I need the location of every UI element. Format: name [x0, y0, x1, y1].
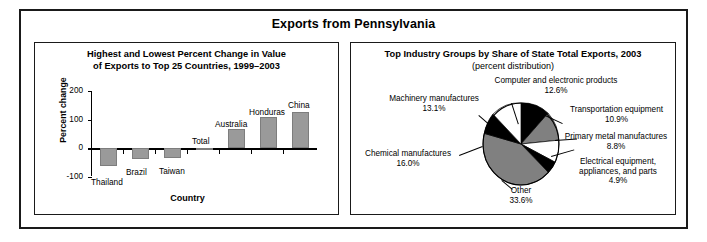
x-axis-title: Country — [35, 193, 340, 203]
x-tick-2 — [155, 150, 156, 154]
bar-taiwan — [164, 148, 181, 158]
pie-label-other: Other 33.6% — [481, 186, 561, 205]
pie-value-chemical: 16.0% — [396, 159, 419, 168]
pie-label-text-chemical: Chemical manufactures — [365, 149, 451, 158]
x-tick-5 — [251, 150, 252, 154]
pie-value-computer: 12.6% — [544, 86, 567, 95]
pie-value-electrical: 4.9% — [609, 176, 628, 185]
bar-australia — [228, 129, 245, 149]
bar-label-taiwan: Taiwan — [159, 166, 185, 176]
bar-label-thailand: Thailand — [91, 177, 123, 187]
pie-chart-panel: Top Industry Groups by Share of State To… — [350, 42, 676, 215]
x-tick-4 — [219, 150, 220, 154]
pie-label-text-primary-metal: Primary metal manufactures — [565, 132, 667, 141]
x-tick-3 — [187, 150, 188, 154]
y-tick-100 — [88, 120, 92, 121]
pie-value-machinery: 13.1% — [422, 104, 445, 113]
pie-value-primary-metal: 8.8% — [607, 142, 626, 151]
y-axis-title: Percent change — [58, 75, 68, 145]
pie-label-text-other: Other — [511, 186, 531, 195]
bar-china — [292, 112, 309, 148]
pie-value-transportation: 10.9% — [605, 115, 628, 124]
x-tick-6 — [283, 150, 284, 154]
pie-label-primary-metal-manufactures: Primary metal manufactures 8.8% — [556, 132, 676, 151]
pie-label-transportation-equipment: Transportation equipment 10.9% — [554, 105, 679, 124]
y-tick-200 — [88, 91, 92, 92]
pie-plot-area: Computer and electronic products 12.6% T… — [351, 43, 677, 216]
y-tick-label-0: 0 — [57, 144, 83, 152]
figure-frame: Exports from Pennsylvania Highest and Lo… — [19, 9, 688, 229]
bar-thailand — [100, 148, 117, 165]
pie-label-text-machinery: Machinery manufactures — [389, 94, 479, 103]
pie-label-machinery-manufactures: Machinery manufactures 13.1% — [379, 94, 489, 113]
pie-label-text-transportation: Transportation equipment — [570, 105, 663, 114]
pie-graphic — [481, 101, 561, 187]
pie-value-other: 33.6% — [509, 196, 532, 205]
y-tick-label-neg100: -100 — [57, 173, 83, 181]
bar-label-total: Total — [192, 136, 210, 146]
bar-label-australia: Australia — [215, 119, 247, 129]
bar-honduras — [260, 117, 277, 148]
pie-label-text-computer: Computer and electronic products — [495, 76, 618, 85]
bar-label-china: China — [288, 100, 310, 110]
y-tick-0 — [88, 148, 92, 149]
pie-label-text-electrical-2: appliances, and parts — [579, 167, 657, 176]
x-tick-1 — [123, 150, 124, 154]
bar-label-honduras: Honduras — [249, 107, 285, 117]
bar-chart-panel: Highest and Lowest Percent Change in Val… — [34, 42, 339, 215]
pie-label-text-electrical-1: Electrical equipment, — [580, 157, 656, 166]
bar-brazil — [132, 148, 149, 159]
bar-plot-area: 200 100 0 -100 — [35, 43, 340, 216]
pie-label-chemical-manufactures: Chemical manufactures 16.0% — [353, 149, 463, 168]
figure-title: Exports from Pennsylvania — [21, 17, 686, 31]
bar-total — [196, 148, 213, 150]
pie-label-computer-and-electronic-products: Computer and electronic products 12.6% — [461, 76, 651, 95]
bar-label-brazil: Brazil — [126, 167, 147, 177]
figure-root: Exports from Pennsylvania Highest and Lo… — [0, 0, 707, 242]
y-axis-line — [91, 91, 92, 176]
pie-label-electrical-equipment-appliances-and-parts: Electrical equipment, appliances, and pa… — [563, 157, 673, 186]
